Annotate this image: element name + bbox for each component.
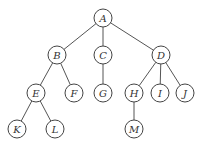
edge-b-e [40,63,52,85]
node-m: M [125,120,143,138]
edge-e-l [40,101,51,121]
node-d: D [152,46,170,64]
node-h: H [125,84,143,102]
node-a: A [94,9,112,27]
edges-group [21,23,180,121]
node-e: E [27,84,45,102]
edge-e-k [21,101,32,121]
edge-d-j [166,63,180,86]
node-label: G [99,88,107,99]
nodes-group: ABCDEFGHIJKLM [8,9,194,138]
node-label: E [31,88,40,99]
node-l: L [46,120,64,138]
node-i: I [151,84,169,102]
edge-d-h [139,62,156,85]
edge-a-d [111,23,154,50]
node-label: H [129,88,139,99]
node-label: C [99,50,107,61]
tree-diagram: ABCDEFGHIJKLM [0,0,200,148]
node-f: F [65,84,83,102]
node-label: L [51,124,59,135]
edge-d-i [160,64,161,84]
node-label: M [128,124,140,135]
node-label: B [52,50,60,61]
node-label: D [156,50,165,61]
node-label: F [70,88,79,99]
node-label: K [12,124,21,135]
edge-b-f [61,63,71,85]
node-label: J [181,88,188,99]
node-g: G [94,84,112,102]
node-c: C [94,46,112,64]
node-j: J [176,84,194,102]
edge-a-b [64,24,96,50]
node-label: A [98,13,106,24]
node-k: K [8,120,26,138]
node-b: B [48,46,66,64]
